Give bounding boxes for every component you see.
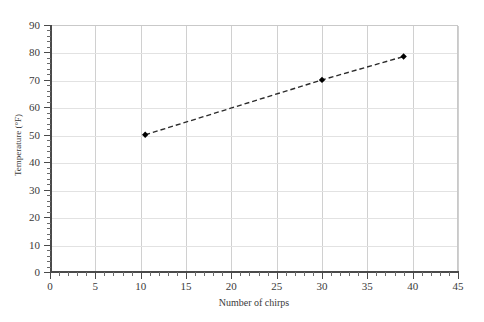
x-tick-label: 35 bbox=[347, 281, 387, 292]
gridline-horizontal bbox=[51, 81, 457, 82]
y-tick-major bbox=[44, 25, 51, 26]
x-tick-label: 45 bbox=[438, 281, 478, 292]
y-tick-minor bbox=[47, 124, 51, 125]
y-tick-major bbox=[44, 52, 51, 53]
y-tick-major bbox=[44, 217, 51, 218]
y-tick-minor bbox=[47, 206, 51, 207]
x-tick-minor bbox=[349, 272, 350, 276]
x-tick-minor bbox=[313, 272, 314, 276]
y-tick-minor bbox=[47, 223, 51, 224]
gridline-horizontal bbox=[51, 246, 457, 247]
y-tick-minor bbox=[47, 239, 51, 240]
y-tick-minor bbox=[47, 69, 51, 70]
x-tick-label: 10 bbox=[121, 281, 161, 292]
y-tick-minor bbox=[47, 85, 51, 86]
y-tick-minor bbox=[47, 91, 51, 92]
x-tick-minor bbox=[222, 272, 223, 276]
gridline-horizontal bbox=[51, 136, 457, 137]
x-tick-minor bbox=[340, 272, 341, 276]
x-tick-label: 25 bbox=[257, 281, 297, 292]
y-tick-minor bbox=[47, 30, 51, 31]
y-tick-minor bbox=[47, 63, 51, 64]
gridline-vertical bbox=[186, 26, 187, 271]
gridline-horizontal bbox=[51, 108, 457, 109]
y-tick-label: 20 bbox=[0, 212, 40, 223]
y-tick-minor bbox=[47, 173, 51, 174]
y-tick-label: 80 bbox=[0, 47, 40, 58]
x-tick-major bbox=[458, 272, 459, 279]
x-tick-major bbox=[95, 272, 96, 279]
x-tick-label: 5 bbox=[75, 281, 115, 292]
x-tick-minor bbox=[123, 272, 124, 276]
y-axis-title: Temperature (°F) bbox=[13, 85, 23, 205]
y-tick-label: 10 bbox=[0, 240, 40, 251]
y-tick-minor bbox=[47, 118, 51, 119]
y-tick-minor bbox=[47, 41, 51, 42]
y-tick-minor bbox=[47, 234, 51, 235]
x-tick-minor bbox=[404, 272, 405, 276]
x-tick-minor bbox=[431, 272, 432, 276]
gridline-vertical bbox=[141, 26, 142, 271]
x-tick-minor bbox=[249, 272, 250, 276]
x-tick-minor bbox=[395, 272, 396, 276]
y-tick-minor bbox=[47, 184, 51, 185]
y-tick-minor bbox=[47, 228, 51, 229]
y-tick-minor bbox=[47, 179, 51, 180]
x-tick-minor bbox=[59, 272, 60, 276]
y-tick-major bbox=[44, 245, 51, 246]
y-tick-minor bbox=[47, 47, 51, 48]
y-tick-minor bbox=[47, 212, 51, 213]
y-tick-major bbox=[44, 162, 51, 163]
plot-area bbox=[50, 25, 458, 272]
x-tick-minor bbox=[77, 272, 78, 276]
x-tick-label: 40 bbox=[393, 281, 433, 292]
y-tick-label: 90 bbox=[0, 20, 40, 31]
y-tick-major bbox=[44, 107, 51, 108]
x-tick-major bbox=[50, 272, 51, 279]
gridline-vertical bbox=[231, 26, 232, 271]
gridline-horizontal bbox=[51, 53, 457, 54]
y-tick-minor bbox=[47, 129, 51, 130]
y-tick-minor bbox=[47, 102, 51, 103]
x-axis-line bbox=[50, 271, 459, 273]
gridline-horizontal bbox=[51, 163, 457, 164]
gridline-vertical bbox=[322, 26, 323, 271]
gridline-vertical bbox=[95, 26, 96, 271]
y-tick-major bbox=[44, 80, 51, 81]
y-tick-minor bbox=[47, 168, 51, 169]
x-tick-minor bbox=[168, 272, 169, 276]
gridline-vertical bbox=[413, 26, 414, 271]
x-tick-minor bbox=[331, 272, 332, 276]
y-tick-minor bbox=[47, 96, 51, 97]
x-tick-minor bbox=[259, 272, 260, 276]
x-tick-minor bbox=[86, 272, 87, 276]
y-tick-minor bbox=[47, 74, 51, 75]
y-tick-minor bbox=[47, 201, 51, 202]
x-tick-major bbox=[231, 272, 232, 279]
x-tick-minor bbox=[104, 272, 105, 276]
x-tick-major bbox=[186, 272, 187, 279]
x-tick-major bbox=[277, 272, 278, 279]
chart-container: 0102030405060708090 051015202530354045 N… bbox=[0, 0, 484, 322]
x-tick-minor bbox=[68, 272, 69, 276]
y-tick-minor bbox=[47, 36, 51, 37]
y-axis-line bbox=[50, 25, 52, 273]
y-tick-major bbox=[44, 135, 51, 136]
y-tick-major bbox=[44, 190, 51, 191]
y-tick-minor bbox=[47, 113, 51, 114]
x-tick-major bbox=[141, 272, 142, 279]
y-tick-minor bbox=[47, 195, 51, 196]
x-tick-minor bbox=[358, 272, 359, 276]
y-tick-minor bbox=[47, 151, 51, 152]
x-tick-minor bbox=[113, 272, 114, 276]
x-tick-major bbox=[367, 272, 368, 279]
y-tick-minor bbox=[47, 267, 51, 268]
x-tick-minor bbox=[204, 272, 205, 276]
x-tick-major bbox=[413, 272, 414, 279]
x-tick-minor bbox=[440, 272, 441, 276]
x-tick-minor bbox=[132, 272, 133, 276]
y-tick-minor bbox=[47, 261, 51, 262]
x-tick-label: 20 bbox=[211, 281, 251, 292]
y-tick-label: 0 bbox=[0, 267, 40, 278]
x-tick-minor bbox=[422, 272, 423, 276]
